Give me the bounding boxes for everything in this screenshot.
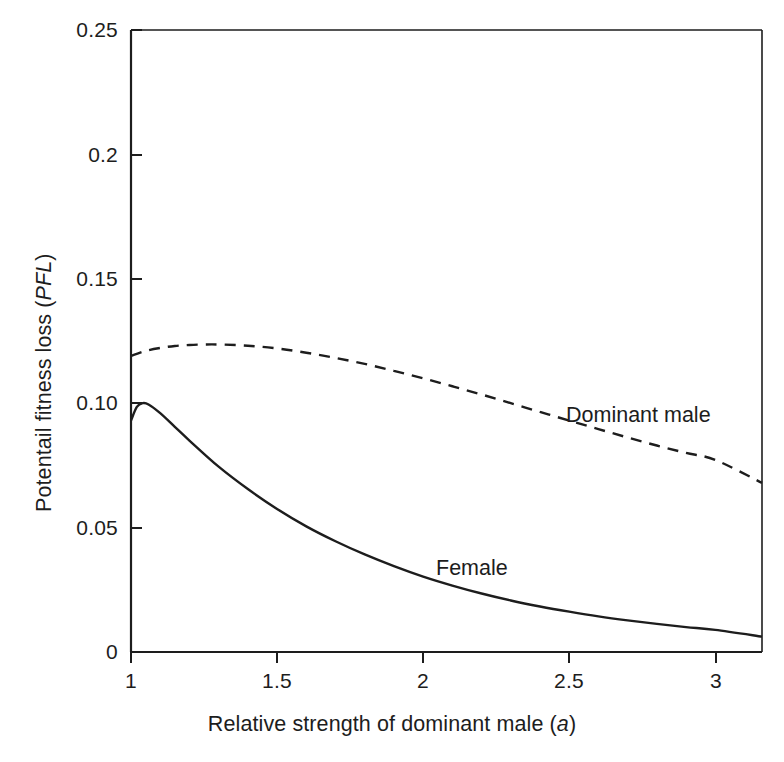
y-tick-marks: [131, 30, 142, 652]
x-tick-label-2: 2: [393, 669, 453, 693]
x-tick-label-1: 1: [101, 669, 161, 693]
y-tick-label-0.25: 0.25: [40, 18, 118, 42]
y-axis-title-suffix: ): [32, 253, 56, 260]
x-axis-title-symbol: a: [557, 712, 569, 736]
series-annotation-dominant-male: Dominant male: [566, 403, 711, 428]
series-line-female: [131, 403, 762, 637]
x-tick-marks: [131, 652, 716, 663]
x-tick-label-2.5: 2.5: [539, 669, 599, 693]
y-axis-title: Potentail fitness loss (PFL): [32, 253, 57, 512]
x-axis-title: Relative strength of dominant male (a): [0, 712, 784, 737]
x-axis-title-suffix: ): [569, 712, 576, 736]
y-tick-label-0: 0: [40, 640, 118, 664]
x-tick-label-3: 3: [686, 669, 746, 693]
y-axis-title-prefix: Potentail fitness loss (: [32, 300, 56, 512]
series-annotation-female: Female: [436, 556, 508, 581]
x-tick-label-1.5: 1.5: [247, 669, 307, 693]
y-axis-title-symbol: PFL: [32, 261, 56, 301]
figure-panel: 0 0.05 0.10 0.15 0.2 0.25 1 1.5 2 2.5 3 …: [0, 0, 784, 762]
y-tick-label-0.2: 0.2: [40, 143, 118, 167]
series-group: [131, 344, 762, 636]
x-axis-title-prefix: Relative strength of dominant male (: [208, 712, 557, 736]
y-tick-label-0.05: 0.05: [40, 516, 118, 540]
